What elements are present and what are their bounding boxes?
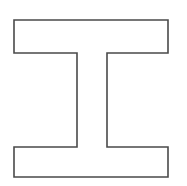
figure-canvas: I-beam outline shape Outline drawing of … xyxy=(0,0,187,186)
i-beam-diagram: I-beam outline shape Outline drawing of … xyxy=(0,0,187,186)
